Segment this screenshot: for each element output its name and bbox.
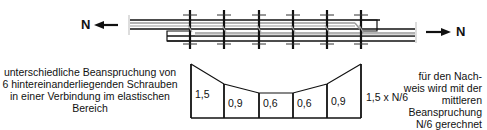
- load-distribution-chart: [191, 64, 361, 118]
- bolt-load-3: 0,6: [263, 97, 278, 109]
- force-label-right: N: [456, 24, 465, 39]
- bolt-load-1: 1,5: [195, 88, 210, 100]
- bolt-load-2: 0,9: [228, 97, 243, 109]
- arrow-left-icon: [94, 21, 118, 29]
- arrow-right-icon: [426, 28, 451, 36]
- description-left: unterschiedliche Beanspruchung von 6 hin…: [2, 66, 178, 114]
- force-label-left: N: [81, 17, 90, 32]
- bolt-load-4: 0,6: [297, 97, 312, 109]
- description-right: für den Nach- weis wird mit der mittlere…: [402, 70, 482, 130]
- bolt-load-5: 0,9: [331, 95, 346, 107]
